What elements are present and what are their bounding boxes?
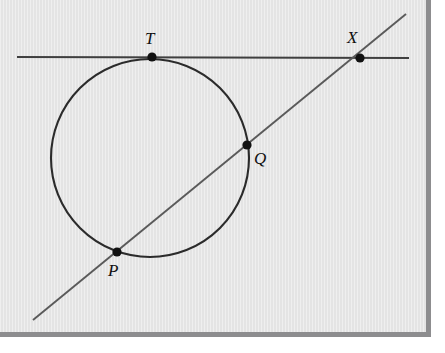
point-T bbox=[147, 52, 156, 61]
circle bbox=[51, 59, 249, 257]
point-Q bbox=[242, 140, 251, 149]
tangent-line-TX bbox=[17, 57, 409, 58]
geometry-canvas bbox=[0, 0, 431, 337]
point-X bbox=[355, 53, 364, 62]
point-P bbox=[112, 247, 121, 256]
point-label-T: T bbox=[145, 30, 154, 47]
point-label-Q: Q bbox=[254, 150, 266, 167]
secant-line-PQX bbox=[33, 14, 406, 320]
figure-panel: T X Q P bbox=[0, 0, 431, 337]
figure-root: T X Q P bbox=[0, 0, 445, 353]
point-label-X: X bbox=[347, 29, 357, 46]
point-label-P: P bbox=[108, 262, 118, 279]
